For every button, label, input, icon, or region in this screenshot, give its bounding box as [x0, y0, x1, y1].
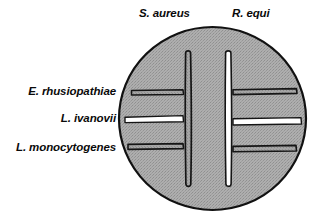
- streak-r-equi: [225, 51, 231, 186]
- row-label-l-ivanovii: L. ivanovii: [61, 113, 116, 125]
- column-label-r-equi: R. equi: [232, 8, 270, 20]
- row-label-e-rhusiopathiae: E. rhusiopathiae: [28, 86, 116, 98]
- streak-right-l-ivanovii: [233, 118, 302, 125]
- row-label-l-monocytogenes: L. monocytogenes: [16, 142, 116, 154]
- streak-right-e-rhusiopathiae: [233, 89, 297, 95]
- streak-left-e-rhusiopathiae: [132, 90, 184, 95]
- streak-s-aureus: [185, 51, 191, 186]
- column-label-s-aureus: S. aureus: [139, 8, 190, 20]
- streak-left-l-ivanovii: [125, 116, 184, 123]
- streak-right-l-monocytogenes: [233, 145, 297, 151]
- camp-test-plate-figure: [0, 0, 319, 223]
- streak-left-l-monocytogenes: [128, 144, 184, 150]
